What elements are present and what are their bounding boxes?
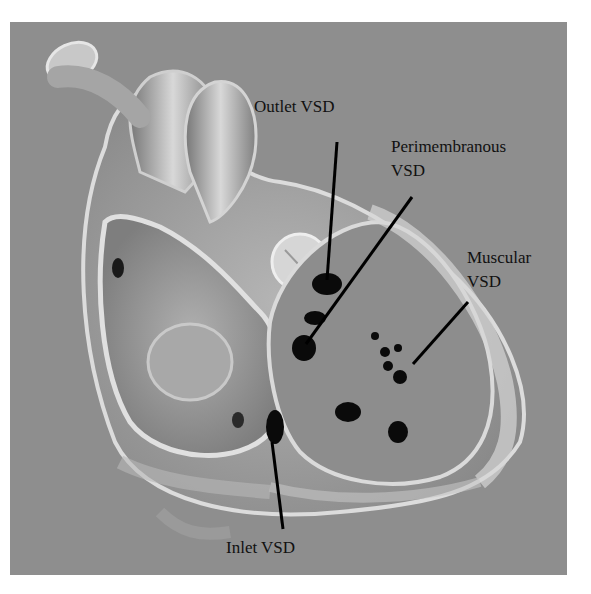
label-muscular-vsd-line2: VSD xyxy=(467,271,501,293)
fossa-ovalis xyxy=(148,324,232,400)
inlet-vsd-hole xyxy=(266,410,284,444)
label-inlet-vsd: Inlet VSD xyxy=(226,537,295,559)
label-muscular-vsd-line1: Muscular xyxy=(467,247,531,269)
perimembranous-vsd-hole xyxy=(292,335,316,361)
label-perimembranous-vsd-line2: VSD xyxy=(391,160,425,182)
label-outlet-vsd: Outlet VSD xyxy=(254,96,334,118)
label-perimembranous-vsd-line1: Perimembranous xyxy=(391,136,506,158)
muscular-vsd-hole xyxy=(393,370,407,384)
